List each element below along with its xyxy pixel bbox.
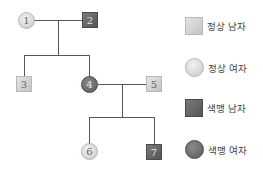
drop-line-6 <box>89 117 90 144</box>
node-label: 5 <box>151 79 157 90</box>
node-label: 1 <box>23 15 29 26</box>
pedigree-node-2-colorblind-male: 2 <box>82 12 98 28</box>
legend-label: 정상 남자 <box>207 19 246 33</box>
node-label: 4 <box>86 79 92 90</box>
sibship-line-6-7 <box>89 117 155 118</box>
legend-label: 색맹 남자 <box>207 101 246 115</box>
pedigree-node-7-colorblind-male: 7 <box>146 144 162 160</box>
pedigree-node-3-normal-male: 3 <box>16 76 32 92</box>
legend-label: 정상 여자 <box>208 61 247 75</box>
drop-line-4 <box>89 55 90 77</box>
legend-item-colorblind-male: 색맹 남자 <box>185 99 246 117</box>
node-label: 2 <box>87 15 93 26</box>
legend-item-normal-male: 정상 남자 <box>185 17 246 35</box>
descent-line-1-2 <box>58 20 59 56</box>
node-label: 3 <box>21 79 27 90</box>
drop-line-3 <box>24 55 25 77</box>
pedigree-node-4-colorblind-female: 4 <box>81 76 98 93</box>
pedigree-node-1-normal-female: 1 <box>18 12 35 29</box>
pedigree-node-6-normal-female: 6 <box>81 143 98 160</box>
pedigree-node-5-normal-male: 5 <box>146 76 162 92</box>
legend-item-colorblind-female: 색맹 여자 <box>185 140 247 159</box>
colorblind-male-square-icon <box>185 99 203 117</box>
normal-male-square-icon <box>185 17 203 35</box>
descent-line-4-5 <box>122 84 123 118</box>
legend-label: 색맹 여자 <box>208 143 247 157</box>
legend-item-normal-female: 정상 여자 <box>185 58 247 77</box>
sibship-line-3-4 <box>24 55 90 56</box>
normal-female-circle-icon <box>185 58 204 77</box>
drop-line-7 <box>154 117 155 144</box>
colorblind-female-circle-icon <box>185 140 204 159</box>
node-label: 6 <box>86 146 92 157</box>
node-label: 7 <box>151 147 157 158</box>
